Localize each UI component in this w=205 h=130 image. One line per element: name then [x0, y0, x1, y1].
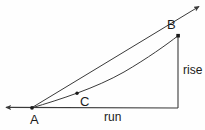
point-a-label: A — [30, 113, 39, 126]
point-b-label: B — [167, 18, 176, 31]
diagram-canvas: A B C rise run — [0, 0, 205, 130]
run-label: run — [104, 111, 121, 123]
function-curve — [32, 36, 178, 108]
point-a-marker — [30, 106, 34, 110]
rise-label: rise — [183, 64, 202, 76]
point-b-marker — [176, 34, 180, 38]
point-c-label: C — [80, 95, 89, 108]
point-c-marker — [75, 92, 78, 95]
